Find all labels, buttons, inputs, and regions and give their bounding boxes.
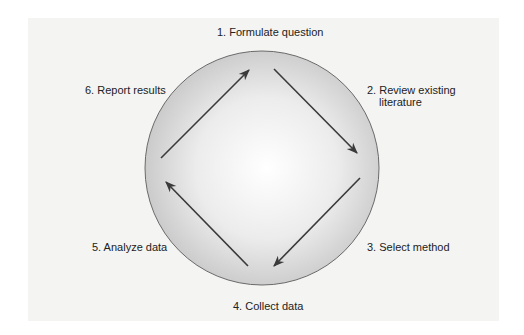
research-cycle-diagram: [0, 0, 524, 335]
cycle-circle: [145, 51, 379, 285]
step-2-label-line1: 2. Review existing: [367, 84, 456, 96]
step-1-label: 1. Formulate question: [217, 26, 323, 38]
step-6-label: 6. Report results: [85, 84, 166, 96]
step-4-label: 4. Collect data: [233, 300, 303, 312]
step-3-label: 3. Select method: [367, 241, 450, 253]
step-5-label: 5. Analyze data: [92, 241, 167, 253]
step-2-label-line2: literature: [379, 96, 422, 108]
